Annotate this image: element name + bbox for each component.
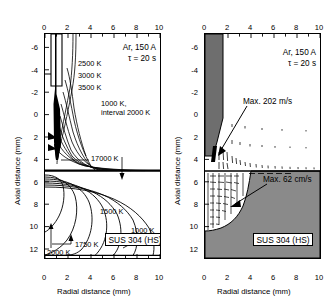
left-xtick-2: 2: [65, 24, 69, 32]
right-x-axis-title: Radial distance (mm): [217, 287, 291, 296]
label-1750k: 1750 K: [75, 241, 98, 250]
right-xtick-bottom-8: 8: [294, 274, 298, 282]
left-ytick-m6: -6: [20, 44, 38, 52]
right-ytick-m4: -4: [180, 67, 198, 75]
left-ytick-0: 0: [20, 112, 38, 120]
label-max-arc-velocity: Max. 202 m/s: [243, 97, 292, 107]
label-17000k: 17000 K: [91, 155, 119, 164]
left-ytick-4: 4: [20, 156, 38, 164]
electrode-solid: [205, 34, 223, 156]
label-3000k: 3000 K: [78, 72, 101, 81]
right-xtick-4: 4: [248, 24, 252, 32]
label-3500k: 3500 K: [78, 84, 101, 93]
right-xtick-2: 2: [225, 24, 229, 32]
label-max-pool-velocity: Max. 62 cm/s: [263, 175, 312, 185]
left-xtick-4: 4: [88, 24, 92, 32]
left-ytick-m4: -4: [20, 67, 38, 75]
right-xtick-6: 6: [271, 24, 275, 32]
left-xtick-bottom-0: 0: [42, 274, 46, 282]
left-x-axis-title: Radial distance (mm): [57, 287, 131, 296]
left-ytick-10: 10: [17, 224, 38, 232]
left-xtick-10: 10: [155, 24, 163, 32]
left-condition-gas: Ar, 150 A: [123, 43, 156, 53]
left-xtick-bottom-8: 8: [134, 274, 138, 282]
right-xtick-0: 0: [202, 24, 206, 32]
left-plot-area: Ar, 150 A τ = 20 s 2500 K 3000 K 3500 K …: [44, 33, 161, 259]
arc-velocity-vectors: [219, 124, 314, 169]
right-ytick-10: 10: [177, 224, 198, 232]
left-ytick-6: 6: [20, 179, 38, 187]
right-xtick-bottom-10: 10: [315, 274, 323, 282]
right-condition-time: τ = 20 s: [288, 59, 316, 69]
left-xtick-bottom-6: 6: [111, 274, 115, 282]
figure-root: 0 2 4 6 8 10 -6 -4 -2 0 2 4 6 8 10 12 Ax…: [0, 0, 328, 305]
left-material-label: SUS 304 (HS): [105, 233, 161, 246]
right-ytick-8: 8: [180, 201, 198, 209]
right-ytick-12: 12: [177, 246, 198, 254]
right-condition-gas: Ar, 150 A: [283, 48, 316, 58]
left-xtick-0: 0: [42, 24, 46, 32]
left-xtick-8: 8: [134, 24, 138, 32]
left-ytick-2: 2: [20, 134, 38, 142]
right-xtick-bottom-4: 4: [248, 274, 252, 282]
right-xtick-10: 10: [315, 24, 323, 32]
right-ytick-4: 4: [180, 156, 198, 164]
right-xtick-bottom-6: 6: [271, 274, 275, 282]
right-ytick-0: 0: [180, 112, 198, 120]
right-ytick-m6: -6: [180, 44, 198, 52]
right-y-axis-title: Axial distance (mm): [173, 137, 182, 205]
label-contour-note-2: interval 2000 K: [101, 109, 150, 118]
right-ytick-6: 6: [180, 179, 198, 187]
label-2000k: 2000 K: [47, 249, 70, 258]
right-ytick-2: 2: [180, 134, 198, 142]
right-xtick-bottom-2: 2: [225, 274, 229, 282]
left-ytick-m2: -2: [20, 89, 38, 97]
right-xtick-8: 8: [294, 24, 298, 32]
left-xtick-6: 6: [111, 24, 115, 32]
left-xtick-bottom-2: 2: [65, 274, 69, 282]
left-ytick-8: 8: [20, 201, 38, 209]
leader-interval-note: [120, 157, 125, 180]
left-xtick-bottom-4: 4: [88, 274, 92, 282]
left-condition-time: τ = 20 s: [128, 54, 156, 64]
right-plot-area: Ar, 150 A τ = 20 s Max. 202 m/s Max. 62 …: [204, 33, 321, 259]
left-y-axis-title: Axial distance (mm): [13, 137, 22, 205]
right-material-label: SUS 304 (HS): [253, 233, 313, 246]
left-contour-svg: [45, 34, 160, 258]
right-ytick-m2: -2: [180, 89, 198, 97]
left-ytick-12: 12: [17, 246, 38, 254]
right-xtick-bottom-0: 0: [202, 274, 206, 282]
label-2500k: 2500 K: [78, 60, 101, 69]
label-1500k: 1500 K: [100, 208, 123, 217]
left-xtick-bottom-10: 10: [155, 274, 163, 282]
